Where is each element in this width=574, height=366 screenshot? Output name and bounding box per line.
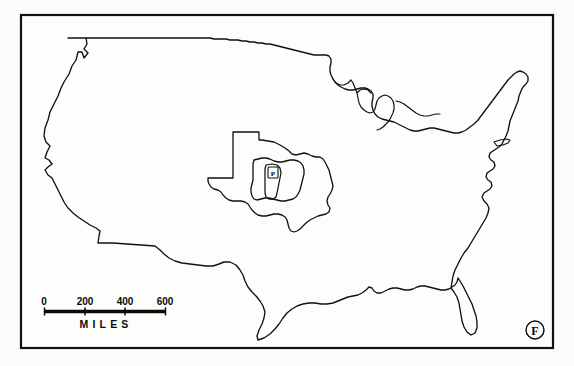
figure-container: P 0 200 400 600 MILES F [0,0,574,366]
scale-tick-label-200: 200 [77,296,94,307]
map-figure-svg: P 0 200 400 600 MILES F [0,0,574,366]
scale-tick-label-400: 400 [117,296,134,307]
scale-tick-label-0: 0 [41,296,47,307]
map-border-frame [21,15,553,348]
scale-unit-label: MILES [79,318,132,330]
figure-label-text: F [531,324,538,338]
scale-tick-label-600: 600 [157,296,174,307]
p-marker-label: P [271,170,276,178]
